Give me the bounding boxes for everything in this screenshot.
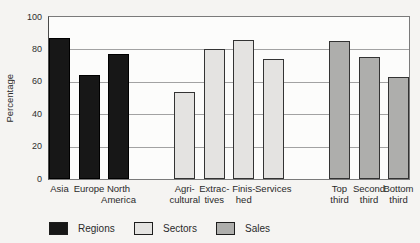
gridline-20 bbox=[49, 147, 409, 148]
gridline-40 bbox=[49, 114, 409, 115]
grouped-bar-chart: Percentage 020406080100 AsiaEuropeNorth … bbox=[0, 0, 420, 243]
legend-item-sales: Sales bbox=[216, 222, 270, 235]
bar-extrac-tives bbox=[204, 49, 225, 179]
x-label-bottom-third: Bottom third bbox=[369, 184, 420, 205]
y-tick-label-80: 80 bbox=[12, 44, 42, 55]
bar-services bbox=[263, 59, 284, 179]
y-tick-label-60: 60 bbox=[12, 76, 42, 87]
bar-north-america bbox=[108, 54, 129, 179]
gridline-80 bbox=[49, 49, 409, 50]
legend-swatch-sales bbox=[216, 222, 235, 235]
x-label-services: Services bbox=[243, 184, 303, 195]
legend-label-sectors: Sectors bbox=[163, 222, 197, 235]
y-tick-label-100: 100 bbox=[12, 12, 42, 23]
gridline-60 bbox=[49, 82, 409, 83]
bar-bottom-third bbox=[388, 77, 409, 179]
legend-swatch-sectors bbox=[134, 222, 153, 235]
bar-europe bbox=[79, 75, 100, 179]
x-label-north-america: North America bbox=[89, 184, 149, 205]
bar-second-third bbox=[359, 57, 380, 179]
legend-label-regions: Regions bbox=[78, 222, 115, 235]
bar-agri-cultural bbox=[174, 92, 195, 179]
legend-swatch-regions bbox=[49, 222, 68, 235]
legend-item-sectors: Sectors bbox=[134, 222, 197, 235]
plot-area bbox=[48, 16, 410, 180]
y-tick-label-20: 20 bbox=[12, 141, 42, 152]
y-tick-label-40: 40 bbox=[12, 109, 42, 120]
bar-finis-hed bbox=[233, 40, 254, 179]
y-tick-label-0: 0 bbox=[12, 174, 42, 185]
y-axis-title: Percentage bbox=[3, 16, 16, 180]
legend-item-regions: Regions bbox=[49, 222, 115, 235]
legend-label-sales: Sales bbox=[245, 222, 270, 235]
bar-asia bbox=[49, 38, 70, 179]
bar-top-third bbox=[329, 41, 350, 179]
